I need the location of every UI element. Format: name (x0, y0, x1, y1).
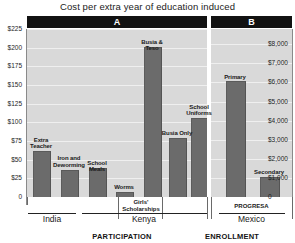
panel-a-axis-spine (26, 29, 27, 205)
group-label-mexico: Mexico (211, 214, 292, 224)
gridline (27, 122, 207, 123)
bar-label: School Uniforms (182, 104, 216, 117)
bar (33, 151, 51, 197)
panel-a-y-axis: $225$200$175$150$125$100$75$50$250 (0, 29, 25, 197)
y-axis-tick-label: $50 (11, 156, 22, 163)
y-axis-tick-label: $175 (8, 62, 22, 69)
section-label: ENROLLMENT (187, 232, 277, 241)
y-axis-tick-label: $8,000 (268, 40, 288, 47)
group-sublabel-girls-scholarships: Girls' Scholarships (120, 199, 162, 212)
gridline (27, 66, 207, 67)
bar-label: Busia Only (160, 130, 194, 137)
y-axis-tick-label: $200 (8, 44, 22, 51)
bar-label: Busia & Teso (135, 39, 169, 52)
bar (169, 138, 187, 197)
panel-b-header: B (211, 16, 292, 28)
bar-label: Primary (218, 74, 252, 81)
y-axis-tick-label: $5,000 (268, 98, 288, 105)
chart-title: Cost per extra year of education induced (0, 1, 295, 12)
chart-figure: Cost per extra year of education induced… (0, 0, 295, 243)
bar-label: School Meals (80, 160, 114, 173)
y-axis-tick-label: $125 (8, 100, 22, 107)
panel-b-axis-spine (292, 29, 293, 205)
panel-a-header: A (27, 16, 207, 28)
bar (144, 47, 162, 197)
y-axis-tick-label: $100 (8, 118, 22, 125)
gridline (27, 85, 207, 86)
gridline (27, 104, 207, 105)
y-axis-tick-label: $7,000 (268, 59, 288, 66)
group-label-india: India (24, 214, 80, 224)
gridline (27, 29, 207, 30)
group-separator (207, 197, 208, 219)
y-axis-tick-label: $150 (8, 81, 22, 88)
section-label: PARTICIPATION (57, 232, 187, 241)
group-separator (211, 197, 212, 219)
bar-label: Secondary (252, 169, 286, 176)
y-axis-tick-label: $2,000 (268, 155, 288, 162)
gridline (27, 48, 207, 49)
bar (61, 170, 79, 197)
bar-label: Worms (107, 184, 141, 191)
bar (226, 81, 246, 197)
bar-label: Extra Teacher (24, 137, 58, 150)
y-axis-tick-label: 0 (268, 193, 272, 200)
group-separator (292, 197, 293, 219)
y-axis-tick-label: $6,000 (268, 78, 288, 85)
group-sublabel-progresa: PROGRESA (211, 203, 292, 210)
group-label-kenya: Kenya (112, 214, 176, 224)
y-axis-tick-label: 0 (18, 193, 22, 200)
y-axis-tick-label: $25 (11, 174, 22, 181)
y-axis-tick-label: $3,000 (268, 136, 288, 143)
panel-a-plot-area (27, 29, 207, 197)
y-axis-tick-label: $4,000 (268, 117, 288, 124)
group-separator (27, 197, 28, 205)
y-axis-tick-label: $75 (11, 137, 22, 144)
y-axis-tick-label: $225 (8, 25, 22, 32)
